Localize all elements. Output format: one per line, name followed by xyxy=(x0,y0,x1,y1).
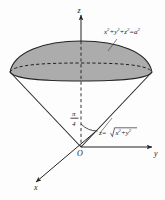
cone-eq-y-exp: 2 xyxy=(129,128,132,133)
sphere-eq-a-exp: 2 xyxy=(138,27,141,32)
x-axis xyxy=(36,132,95,182)
cone-equation-lead: z= xyxy=(98,129,107,137)
cone-equation-radicand: x2+y2 xyxy=(115,128,132,137)
angle-denominator: 4 xyxy=(72,120,76,128)
x-axis-line xyxy=(36,132,95,182)
y-axis-label: y xyxy=(153,149,158,158)
figure-canvas: z y x O x2+y2+z2=a2 z= x2+y2 π 4 xyxy=(0,0,165,200)
angle-arc xyxy=(81,124,98,131)
sphere-equation-label: x2+y2+z2=a2 xyxy=(103,27,141,36)
sphere-equation-text: x2+y2+z2=a2 xyxy=(103,27,141,36)
angle-numerator: π xyxy=(72,110,76,118)
angle-arc-path xyxy=(81,124,98,131)
angle-label: π 4 xyxy=(71,110,79,128)
x-axis-label: x xyxy=(33,183,38,192)
math-figure: z y x O x2+y2+z2=a2 z= x2+y2 π 4 xyxy=(0,0,165,200)
cone-eq-lead-text: z= xyxy=(98,129,107,137)
z-axis-label: z xyxy=(77,6,82,15)
cone-equation-label: z= x2+y2 xyxy=(98,128,137,137)
cone-line-left xyxy=(10,72,81,147)
origin-label: O xyxy=(77,149,83,158)
